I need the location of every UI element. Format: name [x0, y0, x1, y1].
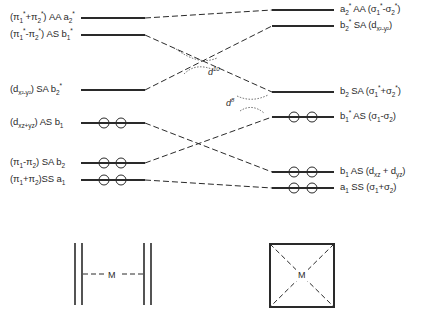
left-label-b1-star: (π1*-π2*) AS b1*	[10, 29, 73, 39]
avoided-crossing-d10-upper	[176, 49, 217, 61]
right-label-b1: b1 AS (dxz + dyz)	[340, 166, 405, 176]
inset-right-metal-label: M	[298, 270, 306, 280]
inset-left-metal-label: M	[108, 270, 116, 280]
right-label-a2-star: a2* AA (σ1*-σ2*)	[340, 4, 400, 14]
correlation-b2star-b2star	[145, 26, 272, 90]
annotation-d10: d10	[208, 66, 220, 77]
correlation-a1-a1	[145, 180, 272, 188]
left-label-b1: (dxz+yz) AS b1	[10, 117, 63, 127]
avoided-crossing-d8-lower	[240, 107, 264, 113]
left-label-b2-star: (dx²-y²) SA b2*	[10, 84, 62, 94]
correlation-b1-b1	[145, 123, 272, 172]
left-label-a2-star: (π1*+π2*) AA a2*	[10, 12, 75, 22]
right-label-b2: b2 SA (σ1*+σ2*)	[340, 86, 401, 96]
avoided-crossing-d8-upper	[237, 95, 268, 99]
annotation-d8: d8	[226, 97, 235, 108]
correlation-a2-a2	[145, 10, 272, 18]
right-label-b2-star: b2* SA (dx²-y²)	[340, 20, 392, 30]
right-label-b1-star: b1* AS (σ1-σ2)	[340, 111, 396, 121]
left-label-b2: (π1-π2) SA b2	[10, 157, 65, 167]
left-label-a1: (π1+π2)SS a1	[10, 174, 65, 184]
correlation-b1star-b2	[145, 35, 272, 92]
right-label-a1: a1 SS (σ1+σ2)	[340, 182, 396, 192]
correlation-b2-b1star	[145, 117, 272, 163]
